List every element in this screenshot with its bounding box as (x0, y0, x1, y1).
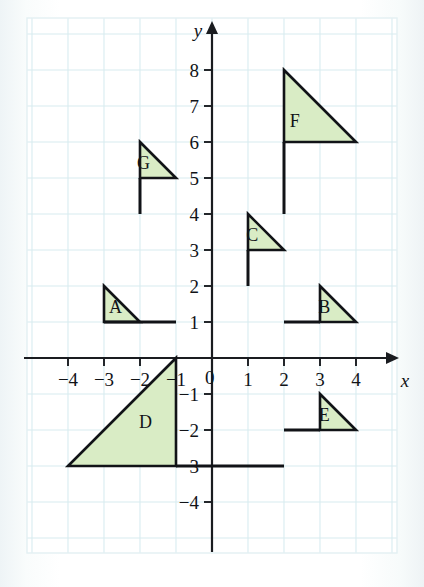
flag-label-c: C (246, 226, 258, 244)
x-tick-label: −2 (130, 370, 150, 389)
y-tick-label: −2 (179, 421, 199, 440)
x-tick-label: 4 (351, 370, 361, 389)
flag-label-f: F (290, 112, 300, 130)
y-tick-label: −1 (179, 385, 199, 404)
x-tick-label: −4 (58, 370, 78, 389)
flag-label-g: G (137, 154, 150, 172)
x-tick-label: 2 (279, 370, 289, 389)
flag-label-d: D (139, 413, 152, 431)
y-tick-label: 6 (190, 133, 200, 152)
x-axis-label: x (401, 371, 409, 390)
y-tick-label: 2 (190, 277, 200, 296)
y-tick-label: −4 (179, 493, 199, 512)
figure-canvas: −4−3−2−1123487654321−1−2−3−40xyABCDEFG (0, 0, 424, 587)
y-tick-label: −3 (179, 457, 199, 476)
y-tick-label: 8 (190, 61, 200, 80)
x-tick-label: 3 (315, 370, 325, 389)
origin-label: 0 (205, 368, 215, 387)
y-tick-label: 3 (190, 241, 200, 260)
flag-label-b: B (318, 298, 330, 316)
flag-label-e: E (319, 406, 330, 424)
flag-label-a: A (109, 298, 122, 316)
y-tick-label: 1 (190, 313, 200, 332)
coordinate-plot (0, 0, 424, 587)
y-axis-label: y (194, 21, 202, 40)
x-tick-label: 1 (243, 370, 253, 389)
y-tick-label: 5 (190, 169, 200, 188)
y-tick-label: 7 (190, 97, 200, 116)
y-tick-label: 4 (190, 205, 200, 224)
x-tick-label: −3 (94, 370, 114, 389)
